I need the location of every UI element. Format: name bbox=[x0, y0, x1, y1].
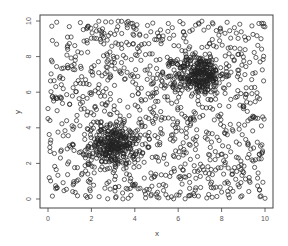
data-point bbox=[160, 132, 164, 136]
data-point bbox=[260, 68, 264, 72]
data-point bbox=[214, 29, 218, 33]
data-point bbox=[209, 140, 213, 144]
data-point bbox=[263, 196, 267, 200]
data-point bbox=[164, 173, 168, 177]
data-points bbox=[46, 19, 267, 201]
data-point bbox=[217, 81, 221, 85]
data-point bbox=[223, 91, 227, 95]
data-point bbox=[173, 126, 177, 130]
data-point bbox=[58, 156, 62, 160]
data-point bbox=[206, 25, 210, 29]
y-axis-title: y bbox=[13, 110, 22, 114]
data-point bbox=[149, 171, 153, 175]
data-point bbox=[63, 129, 67, 133]
data-point bbox=[163, 95, 167, 99]
data-point bbox=[145, 77, 149, 81]
data-point bbox=[194, 176, 198, 180]
data-point bbox=[210, 195, 214, 199]
data-point bbox=[179, 145, 183, 149]
data-point bbox=[113, 32, 117, 36]
data-point bbox=[237, 142, 241, 146]
data-point bbox=[127, 173, 131, 177]
data-point bbox=[113, 67, 117, 71]
data-point bbox=[188, 180, 192, 184]
data-point bbox=[55, 20, 59, 24]
data-point bbox=[253, 100, 257, 104]
data-point bbox=[108, 97, 112, 101]
data-point bbox=[103, 186, 107, 190]
data-point bbox=[239, 195, 243, 199]
data-point bbox=[229, 36, 233, 40]
data-point bbox=[225, 20, 229, 24]
data-point bbox=[239, 92, 243, 96]
data-point bbox=[253, 165, 257, 169]
data-point bbox=[218, 185, 222, 189]
data-point bbox=[101, 90, 105, 94]
data-point bbox=[243, 48, 247, 52]
data-point bbox=[119, 61, 123, 65]
x-tick-label: 2 bbox=[89, 215, 93, 222]
data-point bbox=[159, 127, 163, 131]
data-point bbox=[250, 78, 254, 82]
data-point bbox=[219, 66, 223, 70]
data-point bbox=[247, 189, 251, 193]
data-point bbox=[232, 26, 236, 30]
data-point bbox=[184, 131, 188, 135]
data-point bbox=[236, 36, 240, 40]
data-point bbox=[159, 110, 163, 114]
x-tick-label: 10 bbox=[261, 215, 269, 222]
data-point bbox=[237, 122, 241, 126]
data-point bbox=[97, 19, 101, 23]
data-point bbox=[142, 176, 146, 180]
data-point bbox=[222, 172, 226, 176]
data-point bbox=[112, 83, 116, 87]
data-point bbox=[172, 33, 176, 37]
data-point bbox=[161, 188, 165, 192]
data-point bbox=[102, 109, 106, 113]
data-point bbox=[214, 45, 218, 49]
data-point bbox=[214, 58, 218, 62]
data-point bbox=[227, 104, 231, 108]
data-point bbox=[120, 31, 124, 35]
data-point bbox=[243, 73, 247, 77]
data-point bbox=[48, 145, 52, 149]
data-point bbox=[226, 145, 230, 149]
data-point bbox=[188, 186, 192, 190]
data-point bbox=[132, 165, 136, 169]
data-point bbox=[251, 32, 255, 36]
data-point bbox=[47, 132, 51, 136]
y-tick-label: 8 bbox=[25, 55, 32, 59]
data-point bbox=[212, 44, 216, 48]
data-point bbox=[208, 158, 212, 162]
data-point bbox=[89, 36, 93, 40]
data-point bbox=[132, 33, 136, 37]
data-point bbox=[110, 44, 114, 48]
data-point bbox=[172, 155, 176, 159]
data-point bbox=[195, 128, 199, 132]
data-point bbox=[148, 64, 152, 68]
data-point bbox=[137, 165, 141, 169]
data-point bbox=[65, 93, 69, 97]
data-point bbox=[48, 149, 52, 153]
data-point bbox=[135, 54, 139, 58]
data-point bbox=[65, 119, 69, 123]
data-point bbox=[187, 173, 191, 177]
data-point bbox=[231, 129, 235, 133]
data-point bbox=[177, 155, 181, 159]
data-point bbox=[239, 181, 243, 185]
data-point bbox=[256, 176, 260, 180]
data-point bbox=[199, 185, 203, 189]
data-point bbox=[240, 194, 244, 198]
data-point bbox=[259, 124, 263, 128]
data-point bbox=[70, 94, 74, 98]
data-point bbox=[122, 66, 126, 70]
data-point bbox=[227, 196, 231, 200]
data-point bbox=[90, 31, 94, 35]
data-point bbox=[112, 61, 116, 65]
data-point bbox=[142, 42, 146, 46]
data-point bbox=[125, 70, 129, 74]
data-point bbox=[198, 174, 202, 178]
data-point bbox=[125, 172, 129, 176]
data-point bbox=[227, 83, 231, 87]
data-point bbox=[203, 52, 207, 56]
